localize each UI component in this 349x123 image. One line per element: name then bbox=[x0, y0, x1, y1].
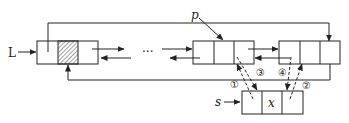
step-1-label: ① bbox=[230, 79, 239, 90]
ellipsis: ··· bbox=[142, 45, 153, 59]
head-prev-link bbox=[48, 23, 329, 52]
step-2-arrow bbox=[290, 64, 302, 99]
pointer-p-arrow bbox=[199, 18, 223, 40]
data-x-label: x bbox=[268, 96, 275, 110]
step-1-arrow bbox=[237, 64, 253, 99]
step-4-label: ④ bbox=[278, 67, 287, 78]
last-next-link bbox=[68, 64, 330, 80]
new-node-label: s bbox=[215, 95, 221, 109]
head-node bbox=[37, 41, 98, 64]
node-next bbox=[279, 41, 340, 64]
node-p bbox=[193, 41, 254, 64]
step-2-label: ② bbox=[302, 80, 311, 91]
linked-list-diagram: L ··· p s x ① ② ③ ④ bbox=[0, 0, 349, 123]
step-4-arrow bbox=[287, 57, 291, 90]
head-label: L bbox=[8, 46, 16, 60]
step-3-label: ③ bbox=[256, 67, 265, 78]
pointer-p-label: p bbox=[191, 8, 199, 22]
